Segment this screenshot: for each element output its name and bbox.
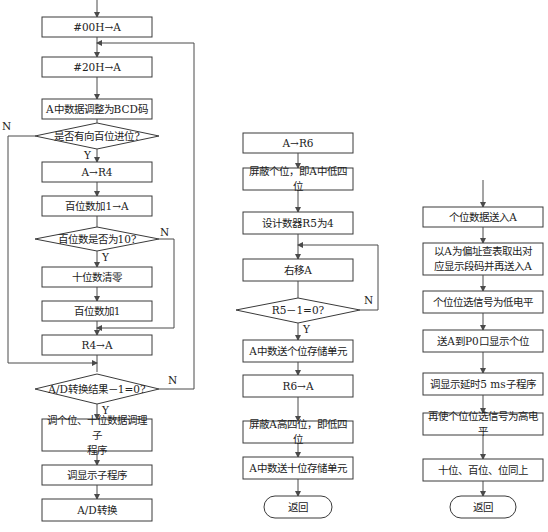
step-hundreds-plus1: 百位数加1 bbox=[42, 301, 152, 321]
label-no-d1: N bbox=[2, 120, 11, 132]
label-no-d4: N bbox=[364, 294, 373, 306]
step-tens-hundreds-same: 十位、百位、位同上 bbox=[423, 459, 543, 481]
step-bcd-adjust: A中数据调整为BCD码 bbox=[42, 99, 152, 119]
label-no-d2: N bbox=[160, 226, 169, 238]
step-call-digit-adjust: 调个位、十位数据调理子 程序 bbox=[42, 419, 152, 451]
step-r6-to-a: R6→A bbox=[243, 375, 353, 397]
step-clear-tens: 十位数清零 bbox=[42, 267, 152, 287]
terminal-return-right: 返回 bbox=[450, 496, 516, 518]
step-shift-right-a: 右移A bbox=[243, 259, 353, 281]
step-r4-to-a: R4→A bbox=[42, 335, 152, 355]
label-yes-d4: Y bbox=[303, 323, 310, 335]
flowchart-canvas: #00H→A #20H→A A中数据调整为BCD码 是否有向百位进位? A→R4… bbox=[0, 0, 548, 532]
step-load-00h: #00H→A bbox=[42, 17, 152, 37]
step-units-select-high: 再使个位位选信号为高电平 bbox=[423, 413, 543, 435]
terminal-return-middle: 返回 bbox=[264, 496, 332, 518]
step-output-p0: 送A到P0口显示个位 bbox=[423, 330, 543, 352]
decision-hundreds-is-10: 百位数是否为10? bbox=[35, 230, 159, 248]
step-mask-high: 屏蔽A高四位，即低四位 bbox=[243, 421, 353, 443]
decision-ad-result: A/D转换结果－1=0? bbox=[35, 380, 159, 398]
decision-r5-minus-1: R5－1=0? bbox=[236, 301, 360, 319]
label-no-d3: N bbox=[168, 374, 177, 386]
step-ad-convert: A/D转换 bbox=[42, 499, 152, 521]
step-a-to-r4: A→R4 bbox=[42, 162, 152, 182]
step-a-to-r6: A→R6 bbox=[243, 133, 353, 153]
decision-hundreds-carry: 是否有向百位进位? bbox=[35, 127, 159, 145]
step-load-20h: #20H→A bbox=[42, 57, 152, 77]
step-set-r5: 设计数器R5为4 bbox=[243, 212, 353, 234]
step-units-to-a: 个位数据送入A bbox=[423, 207, 543, 227]
step-mask-units: 屏蔽个位，即A中低四位 bbox=[243, 168, 353, 190]
label-yes-d3: Y bbox=[102, 404, 109, 416]
step-call-display: 调显示子程序 bbox=[42, 465, 152, 485]
label-yes-d1: Y bbox=[84, 149, 91, 161]
step-hundreds-plus1-to-a: 百位数加1→A bbox=[42, 196, 152, 216]
step-lookup-segment: 以A为偏址查表取出对 应显示段码并再送入A bbox=[423, 243, 543, 275]
step-store-units: A中数送个位存储单元 bbox=[243, 340, 353, 362]
step-store-tens: A中数送十位存储单元 bbox=[243, 457, 353, 479]
step-call-delay: 调显示延时5 ms子程序 bbox=[423, 373, 543, 395]
step-units-select-low: 个位位选信号为低电平 bbox=[423, 291, 543, 313]
label-yes-d2: Y bbox=[102, 251, 109, 263]
